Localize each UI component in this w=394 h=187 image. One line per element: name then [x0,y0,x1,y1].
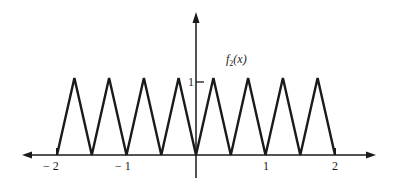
chart-canvas: − 2 − 1 1 2 1 f2(x) [0,0,394,187]
function-argument: (x) [233,52,246,66]
x-axis-right-arrow-icon [366,152,376,159]
x-tick-label-2: 2 [332,160,338,172]
y-tick-label-1: 1 [188,76,194,88]
x-tick-label-1: 1 [263,160,269,172]
x-axis-left-arrow-icon [22,152,32,159]
x-tick-label-neg1: − 1 [115,160,131,172]
x-tick-label-neg2: − 2 [43,160,59,172]
function-label: f2(x) [226,53,247,70]
y-axis-up-arrow-icon [193,12,200,23]
